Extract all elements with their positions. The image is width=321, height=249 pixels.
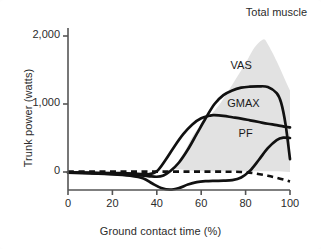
- y-axis-title: Trunk power (watts): [22, 43, 34, 193]
- ytick-label-0: 0: [0, 164, 68, 176]
- ytick-label-2000: 2,000: [0, 28, 68, 40]
- series-label-pf: PF: [239, 127, 253, 139]
- series-label-gmax: GMAX: [227, 97, 259, 109]
- ytick-label-1000: 1,000: [0, 96, 68, 108]
- series-label-vas: VAS: [231, 59, 252, 71]
- xtick-label-100: 100: [250, 197, 321, 209]
- x-axis-title: Ground contact time (%): [0, 225, 321, 237]
- figure-chart-total-muscle: Total muscle 2,000 1,000 0 0 20 40 60 80…: [0, 0, 321, 249]
